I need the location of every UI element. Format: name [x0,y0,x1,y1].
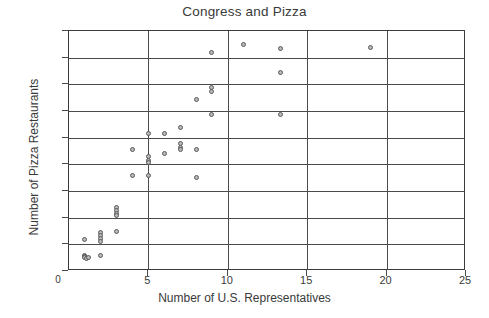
data-point [162,131,167,136]
data-point [146,173,151,178]
data-point [130,173,135,178]
data-point [98,239,103,244]
y-tick-mark [62,110,68,111]
y-tick-mark [62,163,68,164]
data-point [86,255,91,260]
data-point [178,125,183,130]
y-tick-mark [62,57,68,58]
y-tick-mark [62,243,68,244]
x-tick-label: 15 [300,274,312,286]
data-point [194,97,199,102]
gridline-vertical [228,31,229,269]
x-tick-label: 0 [55,274,61,285]
gridline-vertical [148,31,149,269]
gridline-horizontal [69,244,464,245]
gridline-horizontal [69,164,464,165]
y-tick-mark [62,83,68,84]
data-point [98,253,103,258]
data-point [130,147,135,152]
data-point [146,160,151,165]
gridline-horizontal [69,111,464,112]
data-point [114,229,119,234]
data-point [278,112,283,117]
gridline-horizontal [69,138,464,139]
chart-title: Congress and Pizza [0,4,489,19]
data-point [209,89,214,94]
gridline-horizontal [69,84,464,85]
gridline-horizontal [69,191,464,192]
data-point [146,131,151,136]
data-point [178,147,183,152]
x-tick-label: 5 [144,274,150,286]
y-tick-mark [62,270,68,271]
y-tick-mark [62,190,68,191]
scatter-plot-figure: Congress and Pizza 020040060080010001200… [0,0,489,318]
data-point [241,42,246,47]
y-tick-mark [62,137,68,138]
gridline-vertical [387,31,388,269]
data-point [114,213,119,218]
data-point [162,151,167,156]
x-tick-label: 25 [459,274,471,286]
plot-area [68,30,465,270]
x-axis-label: Number of U.S. Representatives [0,291,489,305]
data-point [82,237,87,242]
data-point [194,175,199,180]
data-point [194,147,199,152]
y-tick-mark [62,217,68,218]
data-point [278,70,283,75]
data-point [368,45,373,50]
data-point [209,112,214,117]
data-point [209,50,214,55]
data-point [278,46,283,51]
x-tick-label: 10 [221,274,233,286]
x-tick-label: 20 [379,274,391,286]
gridline-horizontal [69,58,464,59]
gridline-horizontal [69,218,464,219]
y-axis-label: Number of Pizza Restaurants [27,37,41,277]
y-tick-mark [62,30,68,31]
gridline-vertical [307,31,308,269]
